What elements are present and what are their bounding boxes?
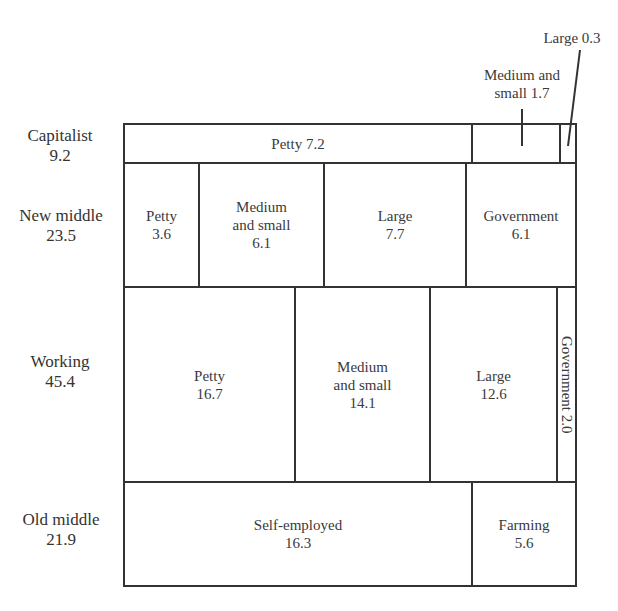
cell-label: Government (484, 207, 559, 225)
cell-capitalist-petty: Petty 7.2 (123, 123, 473, 164)
row-label-working: Working 45.4 (10, 352, 110, 392)
cell-label: Large (476, 367, 511, 385)
row-label-new-middle: New middle 23.5 (5, 206, 117, 246)
cell-value: 6.1 (512, 225, 531, 243)
cell-label: and small (334, 376, 392, 394)
cell-new-middle-petty: Petty 3.6 (123, 162, 200, 288)
cell-working-government: Government 2.0 (556, 286, 577, 483)
cell-value: 14.1 (349, 394, 375, 412)
cell-old-middle-self-employed: Self-employed 16.3 (123, 481, 473, 587)
row-label-value: 23.5 (5, 226, 117, 246)
cell-label: and small (233, 216, 291, 234)
cell-label: Self-employed (254, 516, 342, 534)
cell-capitalist-large (559, 123, 577, 164)
cell-label: Medium (337, 358, 388, 376)
annotation-text: small 1.7 (472, 84, 572, 102)
cell-label: Large (378, 207, 413, 225)
cell-old-middle-farming: Farming 5.6 (471, 481, 577, 587)
cell-label: Farming (499, 516, 550, 534)
cell-value: 5.6 (515, 534, 534, 552)
cell-label: Government 2.0 (558, 336, 576, 433)
cell-new-middle-large: Large 7.7 (323, 162, 467, 288)
cell-label: Petty 7.2 (271, 135, 324, 153)
cell-value: 12.6 (480, 385, 506, 403)
cell-value: 16.3 (285, 534, 311, 552)
cell-working-petty: Petty 16.7 (123, 286, 296, 483)
cell-value: 7.7 (386, 225, 405, 243)
row-label-value: 21.9 (8, 530, 114, 550)
row-label-text: Working (10, 352, 110, 372)
cell-value: 6.1 (252, 234, 271, 252)
row-label-old-middle: Old middle 21.9 (8, 510, 114, 550)
annotation-text: Large 0.3 (543, 30, 600, 46)
cell-working-medium-small: Medium and small 14.1 (294, 286, 431, 483)
row-label-capitalist: Capitalist 9.2 (10, 126, 110, 166)
cell-label: Medium (236, 198, 287, 216)
cell-label: Petty (146, 207, 177, 225)
cell-new-middle-government: Government 6.1 (465, 162, 577, 288)
annotation-capitalist-medium-small: Medium and small 1.7 (472, 66, 572, 102)
annotation-capitalist-large: Large 0.3 (532, 29, 612, 47)
annotation-text: Medium and (472, 66, 572, 84)
row-label-value: 45.4 (10, 372, 110, 392)
row-label-text: New middle (5, 206, 117, 226)
row-label-text: Old middle (8, 510, 114, 530)
cell-value: 3.6 (152, 225, 171, 243)
cell-label: Petty (194, 367, 225, 385)
row-label-text: Capitalist (10, 126, 110, 146)
row-label-value: 9.2 (10, 146, 110, 166)
cell-value: 16.7 (196, 385, 222, 403)
cell-capitalist-medium-small (471, 123, 561, 164)
cell-working-large: Large 12.6 (429, 286, 558, 483)
cell-new-middle-medium-small: Medium and small 6.1 (198, 162, 325, 288)
